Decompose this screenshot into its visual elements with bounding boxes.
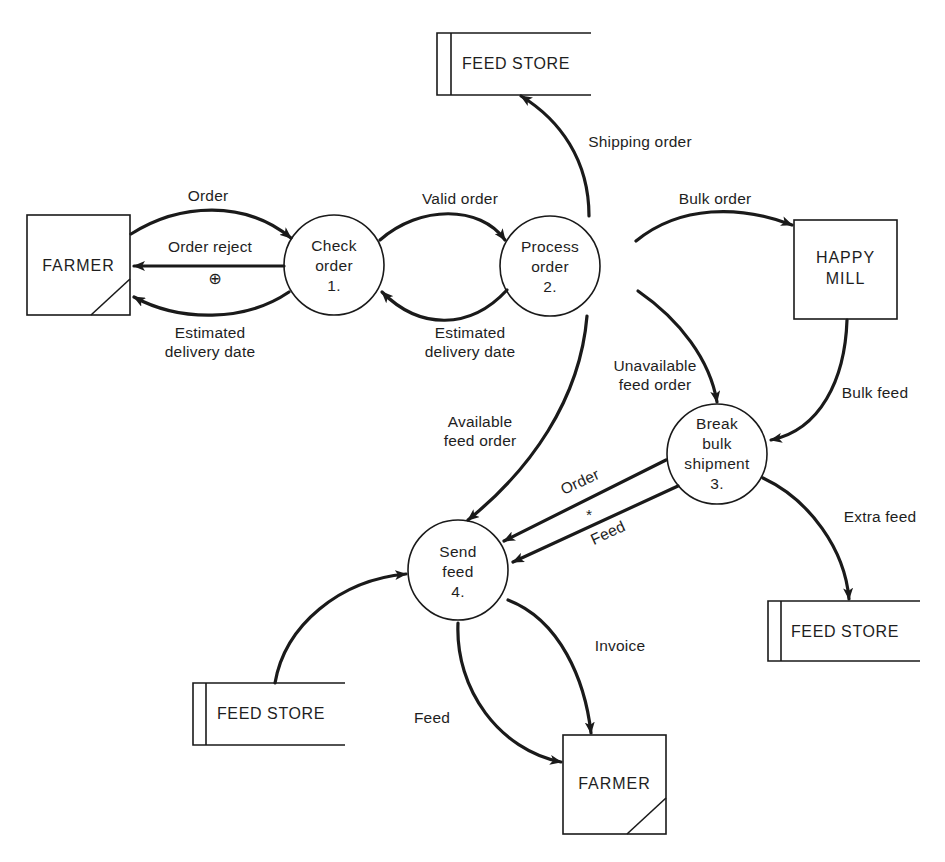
process-2-line-3: 2.	[500, 277, 600, 297]
flow-label-bulk-feed: Bulk feed	[830, 383, 920, 403]
and-symbol-icon: *	[579, 505, 599, 525]
store-label-right: FEED STORE	[791, 621, 899, 642]
flow-label-extra-feed: Extra feed	[830, 507, 930, 527]
exclusive-or-symbol-icon: ⊕	[200, 269, 230, 289]
process-3-line-3: shipment	[667, 454, 767, 474]
entity-label-happy-mill-1: HAPPY	[794, 247, 897, 268]
process-2-line-1: Process	[500, 237, 600, 257]
flow-order	[131, 210, 291, 238]
process-1-line-2: order	[284, 256, 384, 276]
flow-bulk-order	[636, 212, 792, 241]
entity-label-happy-mill-2: MILL	[794, 268, 897, 289]
flow-feed-to-farmer	[458, 623, 561, 762]
process-2-line-2: order	[500, 257, 600, 277]
flow-label-order: Order	[158, 186, 258, 206]
flow-label-invoice: Invoice	[575, 636, 665, 656]
flow-label-shipping-order: Shipping order	[575, 132, 705, 152]
store-label-top: FEED STORE	[462, 53, 570, 74]
flow-invoice	[508, 600, 591, 733]
flow-valid-order	[380, 214, 505, 240]
flow-shipping-order	[521, 96, 589, 216]
flow-est-delivery-2	[382, 290, 507, 320]
flow-label-feed-to-farmer: Feed	[402, 708, 462, 728]
flow-extra-feed	[763, 478, 849, 599]
process-4-line-3: 4.	[408, 582, 508, 602]
flow-label-est-delivery-2a: Estimated	[405, 323, 535, 343]
process-3-line-4: 3.	[667, 474, 767, 494]
flow-label-valid-order: Valid order	[400, 189, 520, 209]
duplicate-marker-icon	[91, 279, 130, 315]
entity-label-farmer-top: FARMER	[27, 255, 130, 276]
entity-label-farmer-bottom: FARMER	[563, 773, 666, 794]
store-label-bottom-left: FEED STORE	[217, 703, 325, 724]
flow-label-est-delivery-2b: delivery date	[405, 342, 535, 362]
process-4-line-2: feed	[408, 562, 508, 582]
process-4-line-1: Send	[408, 542, 508, 562]
flow-label-unavailable-2: feed order	[600, 375, 710, 395]
flow-label-est-delivery-1b: delivery date	[145, 342, 275, 362]
duplicate-marker-icon	[627, 798, 666, 834]
flow-label-est-delivery-1a: Estimated	[145, 323, 275, 343]
process-1-line-1: Check	[284, 236, 384, 256]
process-1-line-3: 1.	[284, 276, 384, 296]
flow-est-delivery-1	[134, 292, 289, 315]
flow-store-to-send	[275, 574, 406, 683]
process-3-line-2: bulk	[667, 434, 767, 454]
flow-bulk-feed	[771, 320, 847, 440]
flow-label-bulk-order: Bulk order	[660, 189, 770, 209]
flow-label-available-1: Available	[430, 412, 530, 432]
flow-label-unavailable-1: Unavailable	[600, 356, 710, 376]
process-3-line-1: Break	[667, 414, 767, 434]
flow-label-available-2: feed order	[430, 431, 530, 451]
flow-label-order-reject: Order reject	[150, 237, 270, 257]
data-flow-diagram: FARMER HAPPY MILL FARMER FEED STORE FEED…	[0, 0, 945, 862]
